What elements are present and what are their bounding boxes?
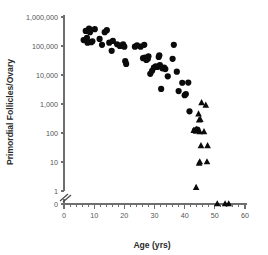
data-point-circle-46 [171,42,177,48]
data-point-triangle-10 [198,142,205,148]
series-triangle [190,99,232,206]
data-point-circle-44 [165,73,171,79]
x-tick-label-5: 50 [211,211,219,220]
y-tick-label-5: 10 [50,158,58,167]
data-point-circle-7 [89,38,95,44]
x-tick-label-4: 40 [181,211,189,220]
x-tick-label-0: 0 [62,211,66,220]
data-point-circle-49 [179,80,185,86]
y-axis-title: Primordial Follicles/Ovary [5,59,15,165]
y-tick-label-4: 100 [46,129,58,138]
data-point-triangle-16 [214,200,221,206]
x-tick-label-6: 60 [241,211,249,220]
data-point-triangle-13 [196,158,203,164]
y-tick-label-6: 1 [54,187,58,196]
data-point-circle-12 [104,27,110,33]
data-points-layer [81,25,233,206]
data-point-circle-31 [145,53,151,59]
data-point-circle-22 [123,61,129,67]
y-tick-label-3: 1,000 [40,100,58,109]
y-tick-label-1: 100,000 [32,42,58,51]
x-tick-label-2: 20 [120,211,128,220]
series-circle [81,25,201,133]
data-point-circle-51 [183,91,189,97]
x-tick-label-1: 10 [90,211,98,220]
data-point-circle-47 [174,69,180,75]
data-point-circle-20 [121,44,127,50]
x-axis-title: Age (yrs) [133,240,170,250]
data-point-circle-48 [176,88,182,94]
data-point-circle-8 [92,26,98,32]
data-point-triangle-2 [195,110,202,116]
y-axis-break-icon [60,194,71,202]
data-point-circle-52 [185,79,191,85]
data-point-circle-38 [156,52,162,58]
data-point-triangle-11 [204,142,211,148]
data-point-circle-43 [162,66,168,72]
chart-canvas: 1,000,000100,00010,0001,0001001010 01020… [0,0,268,255]
data-point-circle-26 [141,42,147,48]
data-point-circle-45 [170,56,176,62]
scatter-chart-figure: 1,000,000100,00010,0001,0001001010 01020… [0,0,268,255]
y-tick-label-7: 0 [54,200,58,209]
x-tick-label-3: 30 [151,211,159,220]
data-point-circle-9 [97,36,103,42]
data-point-triangle-9 [201,128,208,134]
data-point-triangle-0 [198,99,205,105]
data-point-triangle-14 [204,158,211,164]
y-tick-label-2: 10,000 [36,71,58,80]
data-point-circle-53 [186,108,192,114]
y-axis: 1,000,000100,00010,0001,0001001010 [26,13,64,209]
y-tick-label-0: 1,000,000 [26,13,58,22]
x-axis: 0102030405060 [62,204,249,220]
data-point-circle-10 [99,42,105,48]
data-point-triangle-15 [193,184,200,190]
data-point-circle-40 [158,86,164,92]
data-point-circle-14 [109,48,115,54]
